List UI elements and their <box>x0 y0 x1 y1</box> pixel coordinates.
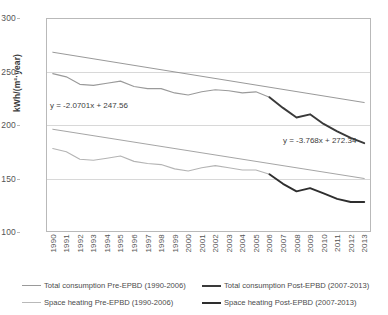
x-axis-tick-label: 2012 <box>347 234 356 253</box>
x-axis-tick-label: 1997 <box>144 234 153 253</box>
x-axis-tick-label: 2011 <box>333 234 342 252</box>
x-axis-tick-label: 1994 <box>103 234 112 253</box>
legend-label: Space heating Post-EPBD (2007-2013) <box>224 298 357 307</box>
x-axis-tick-label: 2003 <box>225 234 234 253</box>
x-axis-tick-label: 1999 <box>171 234 180 253</box>
x-axis-tick-label: 2009 <box>306 234 315 253</box>
y-axis-tick-label: 300 <box>0 13 16 23</box>
x-axis-tick-label: 2007 <box>279 234 288 253</box>
trendline-equation-total: y = -2.0701x + 247.56 <box>50 101 128 110</box>
x-axis-tick-label: 2006 <box>265 234 274 253</box>
y-axis-tick-mark <box>17 179 20 180</box>
x-axis-tick-label: 2001 <box>198 234 207 253</box>
legend-item-space-heating-post-epbd[interactable]: Space heating Post-EPBD (2007-2013) <box>202 298 357 307</box>
x-axis-tick-label: 2013 <box>360 234 369 253</box>
legend-label: Total consumption Post-EPBD (2007-2013) <box>224 281 369 290</box>
x-axis-tick-label: 1998 <box>157 234 166 253</box>
series-line <box>269 174 364 202</box>
x-axis-tick-label: 2005 <box>252 234 261 253</box>
x-axis-tick-label: 1995 <box>116 234 125 253</box>
legend-swatch-line <box>202 302 221 304</box>
series-line <box>53 52 364 102</box>
x-axis-tick-label: 2004 <box>238 234 247 253</box>
x-axis-tick-label: 1996 <box>130 234 139 253</box>
x-axis-tick-label: 1993 <box>89 234 98 253</box>
y-axis-tick-label: 200 <box>0 120 16 130</box>
y-axis-tick-label: 150 <box>0 174 16 184</box>
y-axis-tick-mark <box>17 72 20 73</box>
series-line <box>53 149 270 175</box>
x-axis-tick-label: 2010 <box>320 234 329 253</box>
y-axis: kWh/(m²·year) 300250200150100 <box>0 0 46 250</box>
series-line <box>53 74 270 98</box>
y-axis-tick-mark <box>17 232 20 233</box>
chart-legend: Total consumption Pre-EPBD (1990-2006) T… <box>22 281 382 313</box>
legend-swatch-line <box>202 285 221 287</box>
x-axis-tick-label: 2008 <box>293 234 302 253</box>
series-layer <box>46 18 371 232</box>
x-axis-tick-label: 1991 <box>62 234 71 253</box>
legend-label: Total consumption Pre-EPBD (1990-2006) <box>44 281 186 290</box>
x-axis-tick-label: 1992 <box>76 234 85 253</box>
legend-swatch-line <box>22 302 41 303</box>
x-axis: 1990199119921993199419951996199719981999… <box>46 234 371 276</box>
x-axis-tick-label: 2002 <box>211 234 220 253</box>
x-axis-tick-label: 2000 <box>184 234 193 253</box>
chart-figure: kWh/(m²·year) 300250200150100 y = -2.070… <box>0 0 388 315</box>
legend-item-total-consumption-pre-epbd[interactable]: Total consumption Pre-EPBD (1990-2006) <box>22 281 186 290</box>
legend-label: Space heating Pre-EPBD (1990-2006) <box>44 298 173 307</box>
y-axis-tick-label: 250 <box>0 67 16 77</box>
trendline-equation-space-heating: y = -3.768x + 272.34 <box>283 136 356 145</box>
x-axis-tick-label: 1990 <box>49 234 58 253</box>
legend-item-space-heating-pre-epbd[interactable]: Space heating Pre-EPBD (1990-2006) <box>22 298 173 307</box>
legend-swatch-line <box>22 285 41 286</box>
legend-item-total-consumption-post-epbd[interactable]: Total consumption Post-EPBD (2007-2013) <box>202 281 369 290</box>
y-axis-tick-label: 100 <box>0 227 16 237</box>
y-axis-tick-mark <box>17 125 20 126</box>
y-axis-tick-mark <box>17 18 20 19</box>
